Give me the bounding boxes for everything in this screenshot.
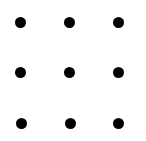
grid-dot	[113, 118, 124, 129]
grid-dot	[16, 118, 27, 129]
grid-dot	[15, 17, 26, 28]
grid-dot	[113, 17, 124, 28]
grid-dot	[15, 67, 26, 78]
grid-dot	[64, 67, 75, 78]
grid-dot	[113, 67, 124, 78]
grid-dot	[65, 118, 76, 129]
dot-grid-board	[0, 0, 146, 141]
grid-dot	[64, 17, 75, 28]
